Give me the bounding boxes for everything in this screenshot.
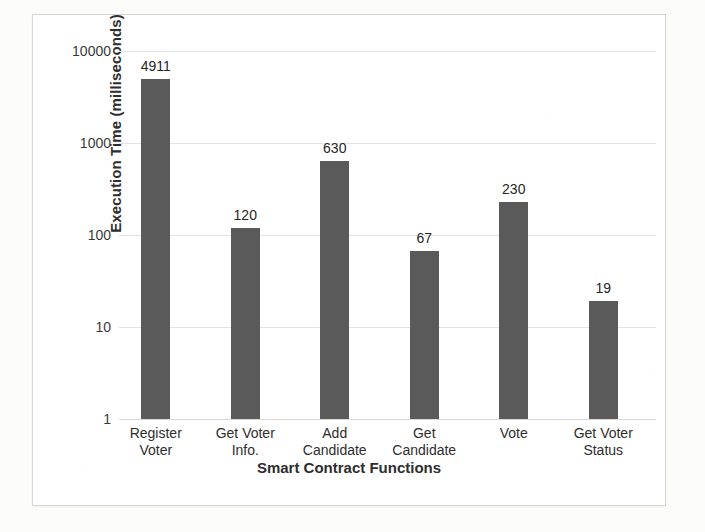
x-category-label-line: Get Voter	[195, 425, 295, 442]
x-category-label-line: Get	[374, 425, 474, 442]
bar-slot: 67	[410, 51, 439, 419]
bar[interactable]	[499, 202, 528, 419]
x-category-label: AddCandidate	[285, 425, 385, 459]
bar-value-label: 4911	[141, 58, 171, 74]
bar[interactable]	[320, 161, 349, 419]
bar-slot: 120	[231, 51, 260, 419]
bar-slot: 230	[499, 51, 528, 419]
x-category-label-line: Candidate	[374, 442, 474, 459]
x-category-label: Get VoterInfo.	[195, 425, 295, 459]
chart-figure-frame: Execution Time (milliseconds) 1000010001…	[32, 14, 666, 506]
bar-value-label: 67	[416, 230, 432, 246]
bar-value-label: 19	[595, 280, 611, 296]
bar-value-label: 630	[323, 140, 346, 156]
gridline-1	[119, 419, 656, 420]
y-tick-label-1000: 1000	[80, 135, 111, 151]
bar-slot: 19	[589, 51, 618, 419]
x-category-label-line: Add	[285, 425, 385, 442]
y-tick-label-10000: 10000	[72, 43, 111, 59]
x-category-label-line: Voter	[106, 442, 206, 459]
bar[interactable]	[231, 228, 260, 419]
gridline-100	[119, 235, 656, 236]
y-tick-label-10: 10	[95, 319, 111, 335]
x-category-label-line: Register	[106, 425, 206, 442]
scanned-page-background: Execution Time (milliseconds) 1000010001…	[0, 0, 705, 532]
bar[interactable]	[141, 79, 170, 419]
x-category-label-line: Get Voter	[553, 425, 653, 442]
bar[interactable]	[589, 301, 618, 419]
x-category-label: Vote	[464, 425, 564, 442]
plot-area: 1000010001001014911RegisterVoter120Get V…	[119, 51, 656, 419]
x-category-label-line: Status	[553, 442, 653, 459]
x-category-label: GetCandidate	[374, 425, 474, 459]
gridline-1000	[119, 143, 656, 144]
bar[interactable]	[410, 251, 439, 419]
bar-value-label: 120	[234, 207, 257, 223]
bar-slot: 630	[320, 51, 349, 419]
x-category-label: Get VoterStatus	[553, 425, 653, 459]
bar-slot: 4911	[141, 51, 170, 419]
x-category-label-line: Info.	[195, 442, 295, 459]
bar-value-label: 230	[502, 181, 525, 197]
x-category-label-line: Vote	[464, 425, 564, 442]
x-category-label-line: Candidate	[285, 442, 385, 459]
gridline-10	[119, 327, 656, 328]
x-axis-title: Smart Contract Functions	[33, 459, 665, 476]
x-category-label: RegisterVoter	[106, 425, 206, 459]
gridline-10000	[119, 51, 656, 52]
y-tick-label-100: 100	[88, 227, 111, 243]
